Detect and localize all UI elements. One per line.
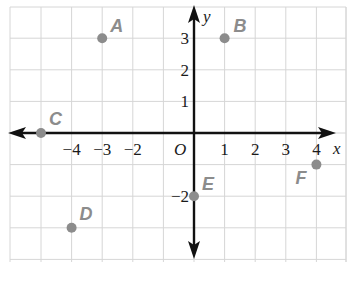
x-axis-label: x — [332, 139, 341, 158]
point-marker — [67, 223, 77, 233]
point-b: B — [220, 16, 247, 43]
point-marker — [311, 160, 321, 170]
y-tick-label: 1 — [181, 92, 190, 111]
x-tick-label: −2 — [124, 140, 142, 159]
x-tick-label: 3 — [282, 140, 291, 159]
point-label: E — [202, 174, 215, 194]
y-tick-label: 3 — [181, 29, 190, 48]
tick-labels: −4−3−21234321−2 — [63, 29, 322, 206]
point-label: C — [49, 109, 63, 129]
x-tick-label: 4 — [312, 140, 321, 159]
point-marker — [220, 33, 230, 43]
y-axis-label: y — [201, 7, 211, 26]
point-f: F — [295, 160, 321, 188]
point-label: A — [109, 16, 123, 36]
point-marker — [36, 128, 46, 138]
point-marker — [97, 33, 107, 43]
grid — [10, 7, 346, 262]
x-tick-label: −4 — [63, 140, 82, 159]
x-tick-label: 2 — [251, 140, 260, 159]
x-tick-label: 1 — [220, 140, 229, 159]
axes — [8, 5, 336, 259]
x-tick-label: −3 — [93, 140, 111, 159]
y-tick-label: 2 — [181, 61, 190, 80]
y-tick-label: −2 — [171, 187, 189, 206]
point-label: B — [234, 16, 247, 36]
coordinate-plane: −4−3−21234321−2 x y O ABCDEF — [0, 0, 348, 287]
origin-label: O — [174, 140, 186, 159]
point-marker — [189, 191, 199, 201]
point-label: F — [295, 168, 307, 188]
point-label: D — [80, 204, 93, 224]
point-a: A — [97, 16, 123, 43]
point-d: D — [67, 204, 93, 233]
